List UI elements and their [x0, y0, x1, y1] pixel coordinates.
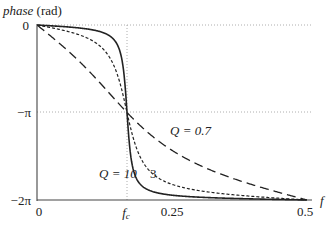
y-axis-title: phase (rad)	[2, 3, 62, 18]
y-axis-title-italic: phase	[2, 3, 34, 18]
annotation-q-0-7: Q = 0.7	[170, 123, 211, 138]
y-axis-title-unit: (rad)	[33, 3, 62, 18]
x-tick-fc-sub: c	[126, 211, 130, 221]
curve-q-3	[37, 25, 306, 200]
curves	[37, 25, 306, 200]
x-tick-0: 0	[36, 204, 43, 219]
y-tick-minus-2pi: −2π	[11, 193, 32, 208]
x-tick-fc: fc	[122, 205, 130, 221]
annotation-q-10: Q = 10	[99, 166, 137, 181]
y-tick-0: 0	[23, 18, 30, 33]
x-tick-05: 0.5	[297, 204, 313, 219]
annotation-q-0-7-text: Q = 0.7	[170, 123, 211, 138]
curve-q-10	[37, 25, 306, 200]
curve-q-0-7	[37, 25, 306, 200]
gridlines	[37, 25, 312, 200]
annotation-q-3: 3	[150, 166, 157, 181]
phase-response-chart: phase (rad) 0 −π −2π 0 fc 0.25 0.5 f Q =…	[0, 0, 334, 227]
x-tick-025: 0.25	[161, 204, 184, 219]
y-tick-minus-pi: −π	[17, 105, 31, 120]
x-axis-title: f	[320, 193, 326, 208]
